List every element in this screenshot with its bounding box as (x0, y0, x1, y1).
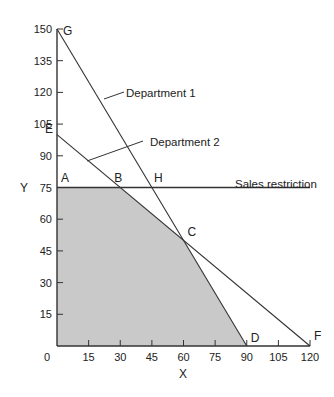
y-tick-label: 75 (40, 182, 52, 194)
x-tick-label: 105 (269, 351, 287, 363)
sales-restriction-label: Sales restriction (235, 178, 317, 190)
point-label-d: D (251, 331, 260, 345)
point-label-g: G (63, 24, 72, 38)
x-tick-label: 30 (114, 351, 126, 363)
y-tick-label: 135 (34, 55, 52, 67)
point-label-f: F (314, 329, 321, 343)
y-tick-label: 120 (34, 86, 52, 98)
x-tick-label: 120 (301, 351, 319, 363)
x-axis-title: X (179, 367, 187, 381)
y-tick-label: 30 (40, 277, 52, 289)
point-label-b: B (114, 171, 122, 185)
y-tick-label: 150 (34, 23, 52, 35)
y-axis-title: Y (20, 181, 28, 195)
department-2-label: Department 2 (150, 136, 220, 148)
department-1-leader (104, 92, 124, 99)
x-tick-label: 90 (241, 351, 253, 363)
point-label-c: C (188, 225, 197, 239)
x-tick-label: 15 (83, 351, 95, 363)
department-1-label: Department 1 (126, 87, 196, 99)
x-tick-label: 45 (146, 351, 158, 363)
point-label-h: H (154, 171, 163, 185)
plot-area: 1530456075901051201530456075901051201351… (20, 23, 321, 381)
point-label-e: E (45, 122, 53, 136)
point-label-a: A (61, 171, 69, 185)
y-tick-label: 45 (40, 245, 52, 257)
y-tick-label: 90 (40, 150, 52, 162)
linear-programming-chart: 1530456075901051201530456075901051201351… (0, 0, 334, 397)
feasible-region (57, 188, 247, 347)
x-tick-label: 75 (209, 351, 221, 363)
origin-label: 0 (44, 351, 50, 363)
x-tick-label: 60 (177, 351, 189, 363)
y-tick-label: 60 (40, 213, 52, 225)
y-tick-label: 15 (40, 308, 52, 320)
